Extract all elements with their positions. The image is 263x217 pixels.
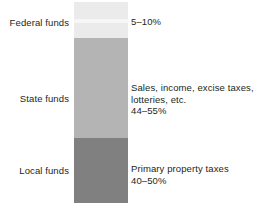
annotation-local-funds: Primary property taxes 40–50% <box>131 163 229 186</box>
annotation-federal-funds: 5–10% <box>131 16 161 28</box>
category-label-state-funds: State funds <box>20 93 69 104</box>
annotation-local-description-line1: Primary property taxes <box>131 163 229 175</box>
category-label-local-funds: Local funds <box>19 165 69 176</box>
annotation-federal-range: 5–10% <box>131 16 161 28</box>
bar-segment-federal-funds <box>74 2 128 38</box>
category-label-federal-funds: Federal funds <box>10 17 69 28</box>
annotation-local-range: 40–50% <box>131 175 229 187</box>
annotation-state-funds: Sales, income, excise taxes, lotteries, … <box>131 82 254 117</box>
annotation-state-range: 44–55% <box>131 105 254 117</box>
bar-segment-local-funds <box>74 138 128 203</box>
annotation-state-description-line1: Sales, income, excise taxes, <box>131 82 254 94</box>
bar-segment-state-funds <box>74 38 128 138</box>
stacked-bar-figure: Federal funds State funds Local funds 5–… <box>0 0 263 217</box>
annotation-state-description-line2: lotteries, etc. <box>131 94 254 106</box>
